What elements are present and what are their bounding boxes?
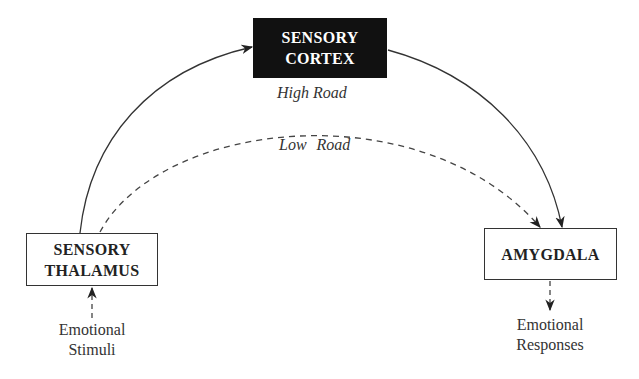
high-road-arrow-up	[80, 47, 252, 233]
stimuli-line1: Emotional	[32, 320, 152, 340]
amygdala-node: AMYGDALA	[484, 228, 617, 280]
high-road-label: High Road	[277, 84, 347, 102]
responses-line1: Emotional	[490, 315, 610, 335]
sensory-thalamus-node: SENSORY THALAMUS	[26, 233, 158, 286]
emotional-stimuli-label: Emotional Stimuli	[32, 320, 152, 360]
emotional-responses-label: Emotional Responses	[490, 315, 610, 355]
amygdala-label: AMYGDALA	[501, 244, 599, 265]
sensory-thalamus-line1: SENSORY	[53, 239, 130, 260]
low-road-label: Low Road	[279, 136, 350, 154]
sensory-cortex-line1: SENSORY	[281, 27, 358, 48]
sensory-thalamus-line2: THALAMUS	[45, 260, 140, 281]
sensory-cortex-node: SENSORY CORTEX	[253, 18, 387, 78]
sensory-cortex-line2: CORTEX	[285, 48, 355, 69]
high-road-arrow-down	[388, 50, 562, 227]
responses-line2: Responses	[490, 335, 610, 355]
stimuli-line2: Stimuli	[32, 340, 152, 360]
